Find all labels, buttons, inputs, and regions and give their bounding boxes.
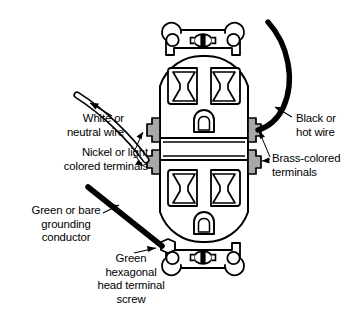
label-nickel-terminals: Nickel or light colored terminals xyxy=(6,146,148,173)
label-brass-terminals: Brass-colored terminals xyxy=(272,152,358,179)
ground-hole-lower xyxy=(194,212,214,234)
label-green-hex-screw: Green hexagonal head terminal screw xyxy=(90,252,172,306)
label-black-hot-wire: Black or hot wire xyxy=(296,112,358,139)
wire-black-hot xyxy=(258,22,289,130)
top-strap-hole-left xyxy=(166,34,178,46)
bottom-strap-hole-right xyxy=(227,252,239,264)
terminal-lower-right-brass xyxy=(248,150,261,174)
label-green-grounding-conductor: Green or bare grounding conductor xyxy=(10,204,122,245)
terminal-upper-left-nickel xyxy=(147,118,160,142)
label-white-neutral-wire: White or neutral wire xyxy=(6,112,124,139)
wiring-diagram: White or neutral wire Nickel or light co… xyxy=(0,0,361,314)
center-waist-band xyxy=(160,138,248,160)
top-strap-hole-right xyxy=(227,34,239,46)
ground-hole-upper xyxy=(194,110,214,132)
